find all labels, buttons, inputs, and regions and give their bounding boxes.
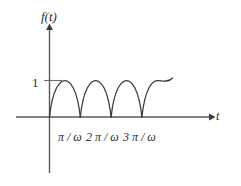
y-tick-label-1: 1: [32, 76, 39, 89]
arch-3: [111, 81, 142, 118]
x-tick-label-pi-over-omega: π / ω: [58, 131, 82, 143]
x-tick-label-2pi-over-omega: 2 π / ω: [86, 131, 119, 143]
y-axis-arrowhead: [46, 24, 53, 31]
plot-canvas: [0, 0, 241, 186]
rectified-sine-wave-figure: f(t) t 1 π / ω 2 π / ω 3 π / ω: [0, 0, 241, 186]
arch-4-truncated: [142, 78, 173, 117]
x-axis-label: t: [216, 110, 219, 122]
x-tick-label-3pi-over-omega: 3 π / ω: [123, 131, 156, 143]
x-axis: [16, 114, 216, 121]
x-axis-arrowhead: [209, 114, 216, 121]
y-axis-label: f(t): [41, 10, 57, 23]
y-axis: [46, 24, 53, 174]
rectified-sine-curve: [50, 78, 173, 117]
arch-1: [50, 81, 81, 118]
arch-2: [80, 81, 111, 118]
